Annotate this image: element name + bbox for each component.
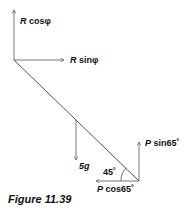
r-sin-label: R sinφ xyxy=(70,55,98,65)
rod-line xyxy=(14,60,139,181)
r-cos-label: R cosφ xyxy=(20,16,51,26)
p-sin-label: P sin65˚ xyxy=(145,138,180,148)
force-diagram xyxy=(0,0,187,211)
angle-label: 45˚ xyxy=(103,167,116,177)
weight-label: 5g xyxy=(79,161,90,171)
p-cos-label: P cos65˚ xyxy=(97,184,134,194)
figure-caption: Figure 11.39 xyxy=(8,193,71,205)
angle-arc xyxy=(121,168,126,181)
